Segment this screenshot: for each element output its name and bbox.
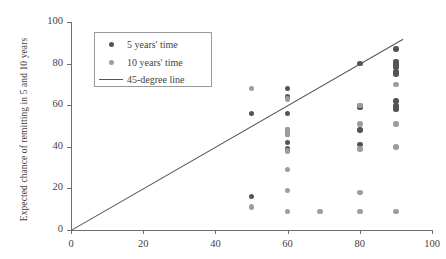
y-tick: [67, 147, 71, 148]
data-point: [285, 132, 290, 137]
data-point: [285, 167, 290, 172]
data-point: [249, 194, 254, 199]
x-tick-label: 20: [123, 238, 163, 249]
data-point: [393, 71, 398, 76]
data-point: [317, 209, 322, 214]
legend-label-10-years: 10 years' time: [127, 57, 183, 68]
y-tick-label: 20: [29, 181, 63, 192]
chart-legend: 5 years' time 10 years' time 45-degree l…: [94, 32, 212, 87]
x-tick: [360, 230, 361, 234]
data-point: [285, 111, 290, 116]
x-tick: [432, 230, 433, 234]
x-tick: [288, 230, 289, 234]
data-point: [393, 121, 398, 126]
legend-item-45-degree-line: 45-degree line: [95, 70, 213, 88]
data-point: [249, 111, 254, 116]
x-tick-label: 80: [340, 238, 380, 249]
x-tick: [143, 230, 144, 234]
x-tick: [71, 230, 72, 234]
y-tick-label: 100: [29, 15, 63, 26]
legend-dot-5-years-icon: [95, 42, 127, 47]
data-point: [393, 107, 398, 112]
x-tick-label: 60: [268, 238, 308, 249]
x-tick-label: 100: [412, 238, 446, 249]
data-point: [285, 148, 290, 153]
data-point: [357, 190, 362, 195]
data-point: [357, 209, 362, 214]
data-point: [249, 86, 254, 91]
y-tick: [67, 188, 71, 189]
data-point: [393, 82, 398, 87]
data-point: [285, 140, 290, 145]
x-axis-line: [71, 230, 432, 231]
data-point: [357, 127, 362, 132]
y-tick-label: 60: [29, 98, 63, 109]
data-point: [393, 144, 398, 149]
data-point: [357, 61, 362, 66]
x-tick: [215, 230, 216, 234]
x-tick-label: 0: [51, 238, 91, 249]
legend-item-5-years: 5 years' time: [95, 35, 213, 53]
legend-label-45-degree-line: 45-degree line: [127, 74, 184, 85]
data-point: [285, 86, 290, 91]
data-point: [285, 96, 290, 101]
y-tick: [67, 22, 71, 23]
x-tick-label: 40: [195, 238, 235, 249]
data-point: [393, 46, 398, 51]
scatter-chart-figure: Expected chance of remitting in 5 and 10…: [0, 0, 446, 259]
data-point: [249, 204, 254, 209]
legend-item-10-years: 10 years' time: [95, 53, 213, 71]
y-axis-line: [71, 22, 72, 230]
data-point: [357, 103, 362, 108]
legend-dot-10-years-icon: [95, 60, 127, 65]
y-tick: [67, 64, 71, 65]
legend-line-icon: [95, 79, 127, 80]
data-point: [285, 209, 290, 214]
legend-label-5-years: 5 years' time: [127, 39, 178, 50]
y-tick-label: 80: [29, 57, 63, 68]
data-point: [285, 188, 290, 193]
y-tick: [67, 105, 71, 106]
y-tick-label: 40: [29, 140, 63, 151]
data-point: [357, 121, 362, 126]
y-tick-label: 0: [29, 223, 63, 234]
data-point: [393, 209, 398, 214]
data-point: [357, 146, 362, 151]
y-axis-title: Expected chance of remitting in 5 and 10…: [16, 0, 32, 259]
